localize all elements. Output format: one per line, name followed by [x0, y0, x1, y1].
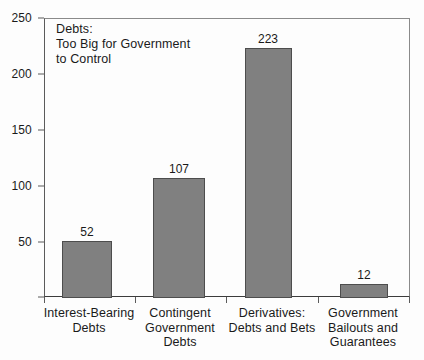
bar-value-label: 107 — [169, 163, 189, 175]
x-axis-label-government-bailouts-and-guarantees: Government Bailouts and Guarantees — [308, 306, 418, 350]
x-tick-mark — [135, 297, 136, 303]
x-tick-mark — [409, 297, 410, 303]
bar-interest-bearing-debts — [62, 241, 112, 298]
bar-contingent-government-debts — [153, 178, 205, 298]
x-tick-mark — [318, 297, 319, 303]
x-tick-mark — [44, 297, 45, 303]
x-tick-mark — [226, 297, 227, 303]
bar-government-bailouts-and-guarantees — [340, 284, 388, 298]
bar-chart: 250 200 150 100 50 Debts: Too Big for Go… — [0, 0, 424, 360]
bar-derivatives-debts-and-bets — [245, 48, 292, 298]
bar-value-label: 223 — [258, 33, 278, 45]
bar-value-label: 52 — [80, 226, 93, 238]
bar-value-label: 12 — [357, 269, 370, 281]
